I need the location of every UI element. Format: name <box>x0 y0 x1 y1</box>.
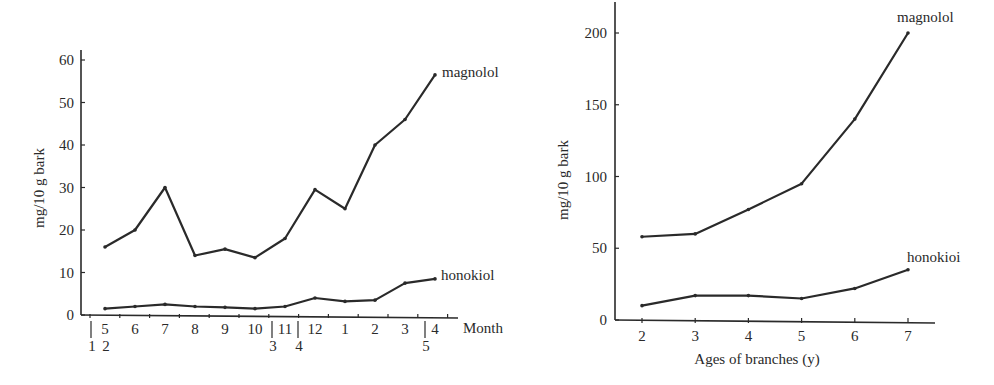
month-label: 1 <box>341 321 349 337</box>
right-y-axis-label: mg/10 g bark <box>555 140 571 220</box>
left-magnolol-line <box>105 75 435 258</box>
data-point <box>747 294 751 298</box>
month-label: 9 <box>221 321 229 337</box>
right-magnolol-label: magnolol <box>897 9 954 25</box>
left-honokiol-line <box>105 279 435 309</box>
y-tick-label: 200 <box>585 25 608 41</box>
data-point <box>193 305 197 309</box>
data-point <box>433 277 437 281</box>
age-label: 2 <box>638 328 646 344</box>
left-x-axis <box>81 315 458 318</box>
age-label: 6 <box>851 328 859 344</box>
month-label: 12 <box>308 321 323 337</box>
data-point <box>906 268 910 272</box>
data-point <box>253 256 257 260</box>
data-point <box>163 186 167 190</box>
right-chart: 050100150200 234567 mg/10 g bark Ages of… <box>555 2 960 368</box>
month-label: 8 <box>191 321 199 337</box>
left-magnolol-label: magnolol <box>442 64 499 80</box>
age-label: 4 <box>745 328 753 344</box>
y-tick-label: 150 <box>585 97 608 113</box>
data-point <box>223 247 227 251</box>
sub-label: 3 <box>269 338 277 354</box>
age-label: 3 <box>691 328 699 344</box>
data-point <box>373 298 377 302</box>
left-y-axis-label: mg/10 g bark <box>31 148 47 228</box>
month-label: 2 <box>371 321 379 337</box>
data-point <box>800 297 804 301</box>
figure: 0102030405060 56789101112123413452 mg/10… <box>0 0 994 385</box>
data-point <box>693 294 697 298</box>
month-label: 7 <box>161 321 169 337</box>
month-label: 11 <box>278 321 292 337</box>
sub-label: 4 <box>295 338 303 354</box>
age-label: 7 <box>904 328 912 344</box>
sub-label: 1 <box>88 338 96 354</box>
data-point <box>103 307 107 311</box>
y-tick-label: 30 <box>59 180 74 196</box>
data-point <box>403 281 407 285</box>
right-magnolol-line <box>642 33 908 237</box>
y-tick-label: 20 <box>59 222 74 238</box>
data-point <box>133 228 137 232</box>
y-tick-label: 50 <box>592 240 607 256</box>
data-point <box>403 118 407 122</box>
y-tick-label: 50 <box>59 95 74 111</box>
data-point <box>906 31 910 35</box>
data-point <box>373 143 377 147</box>
right-x-axis-label: Ages of branches (y) <box>694 351 819 368</box>
left-x-axis-label: Month <box>463 320 504 336</box>
left-honokiol-label: honokiol <box>441 267 494 283</box>
data-point <box>343 207 347 211</box>
data-point <box>313 296 317 300</box>
y-tick-label: 60 <box>59 52 74 68</box>
month-label: 10 <box>248 321 263 337</box>
month-label: 6 <box>131 321 139 337</box>
data-point <box>800 182 804 186</box>
data-point <box>640 304 644 308</box>
data-point <box>747 208 751 212</box>
sub-label: 5 <box>422 338 430 354</box>
data-point <box>693 232 697 236</box>
right-honokiol-line <box>642 270 908 306</box>
month-label: 3 <box>401 321 409 337</box>
data-point <box>133 305 137 309</box>
data-point <box>313 188 317 192</box>
y-tick-label: 10 <box>59 265 74 281</box>
age-label: 5 <box>798 328 806 344</box>
sub-label: 2 <box>102 338 110 354</box>
data-point <box>433 73 437 77</box>
data-point <box>283 305 287 309</box>
right-honokiol-label: honokioi <box>907 249 960 265</box>
right-y-ticks: 050100150200 <box>585 25 620 328</box>
data-point <box>193 254 197 258</box>
data-point <box>283 237 287 241</box>
right-x-axis <box>615 320 935 323</box>
left-data-points <box>103 73 437 310</box>
left-x-ticks: 56789101112123413452 <box>88 314 447 354</box>
y-tick-label: 100 <box>585 169 608 185</box>
data-point <box>223 306 227 310</box>
data-point <box>253 307 257 311</box>
data-point <box>853 287 857 291</box>
data-point <box>640 235 644 239</box>
y-tick-label: 0 <box>67 307 75 323</box>
month-label: 4 <box>431 321 439 337</box>
data-point <box>343 300 347 304</box>
left-chart: 0102030405060 56789101112123413452 mg/10… <box>31 50 504 354</box>
right-data-points <box>640 31 910 307</box>
data-point <box>163 303 167 307</box>
data-point <box>103 245 107 249</box>
data-point <box>853 117 857 121</box>
y-tick-label: 40 <box>59 137 74 153</box>
month-label: 5 <box>101 321 109 337</box>
y-tick-label: 0 <box>600 312 608 328</box>
